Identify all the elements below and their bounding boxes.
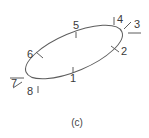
tick-mark-3 [124, 22, 131, 29]
segment-label-3: 3 [134, 18, 140, 30]
segment-label-2: 2 [121, 45, 127, 57]
segment-label-8: 8 [27, 85, 33, 97]
segment-label-1: 1 [70, 72, 76, 84]
segment-label-5: 5 [73, 19, 79, 31]
ellipse-diagram: 1 2 3 4 5 6 7 8 (c) [0, 0, 149, 138]
figure-container: 1 2 3 4 5 6 7 8 (c) [0, 0, 149, 138]
segment-label-7: 7 [11, 77, 17, 89]
segment-label-6: 6 [27, 48, 33, 60]
segment-label-4: 4 [117, 13, 123, 25]
figure-caption: (c) [71, 117, 83, 128]
tick-mark-6 [36, 52, 43, 58]
